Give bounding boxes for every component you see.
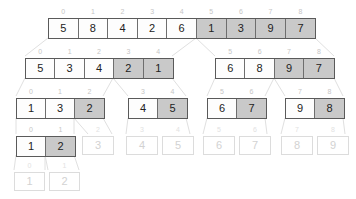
merge-sort-visualization: 0518243246516379870513243241566879870113… bbox=[0, 0, 356, 199]
array-cell[interactable]: 05 bbox=[26, 59, 55, 78]
cell-index-label: 3 bbox=[127, 126, 157, 133]
cell-index-label: 5 bbox=[204, 126, 234, 133]
group-faded-3: 3445 bbox=[126, 136, 198, 155]
cell-index-label: 6 bbox=[240, 126, 270, 133]
cell-index-label: 0 bbox=[26, 48, 54, 55]
array-cell[interactable]: 01 bbox=[14, 172, 45, 191]
group-0-2: 011322 bbox=[16, 98, 105, 119]
cell-index-label: 6 bbox=[245, 48, 273, 55]
cell-index-label: 8 bbox=[318, 126, 348, 133]
group-0-4: 0513243241 bbox=[25, 58, 174, 79]
group-0-1: 0112 bbox=[16, 136, 76, 157]
array-cell[interactable]: 05 bbox=[49, 19, 79, 38]
cell-index-label: 7 bbox=[256, 8, 285, 15]
array-cell[interactable]: 34 bbox=[126, 136, 158, 155]
cell-index-label: 3 bbox=[114, 48, 142, 55]
cell-index-label: 2 bbox=[108, 8, 137, 15]
array-cell[interactable]: 88 bbox=[315, 99, 344, 118]
edge-l1a-mid-r bbox=[113, 78, 128, 96]
edge-l3-mid-r bbox=[45, 155, 48, 170]
array-cell[interactable]: 13 bbox=[55, 59, 84, 78]
group-7-8: 7988 bbox=[285, 98, 345, 119]
array-cell[interactable]: 79 bbox=[256, 19, 286, 38]
array-cell[interactable]: 63 bbox=[227, 19, 257, 38]
cell-index-label: 8 bbox=[315, 88, 344, 95]
group-faded-5: 5667 bbox=[203, 136, 275, 155]
array-cell[interactable]: 12 bbox=[49, 172, 80, 191]
array-cell[interactable]: 24 bbox=[85, 59, 114, 78]
array-cell[interactable]: 45 bbox=[158, 99, 187, 118]
group-3-4: 3445 bbox=[128, 98, 188, 119]
group-0-8: 051824324651637987 bbox=[48, 18, 316, 39]
array-cell[interactable]: 46 bbox=[167, 19, 197, 38]
array-cell[interactable]: 18 bbox=[79, 19, 109, 38]
array-cell[interactable]: 87 bbox=[286, 19, 316, 38]
group-faded-leaf: 0112 bbox=[14, 172, 84, 191]
array-cell[interactable]: 56 bbox=[216, 59, 245, 78]
cell-index-label: 1 bbox=[79, 8, 108, 15]
cell-index-label: 4 bbox=[167, 8, 196, 15]
array-cell[interactable]: 01 bbox=[17, 137, 46, 156]
array-cell[interactable]: 87 bbox=[304, 59, 333, 78]
cell-index-label: 4 bbox=[163, 126, 193, 133]
cell-index-label: 5 bbox=[216, 48, 244, 55]
cell-index-label: 2 bbox=[83, 126, 113, 133]
cell-index-label: 0 bbox=[49, 8, 78, 15]
cell-index-label: 1 bbox=[50, 162, 79, 169]
edge-l0-mid-left bbox=[172, 38, 196, 56]
array-cell[interactable]: 23 bbox=[82, 136, 114, 155]
array-cell[interactable]: 79 bbox=[275, 59, 304, 78]
cell-index-label: 6 bbox=[227, 8, 256, 15]
cell-index-label: 7 bbox=[275, 48, 303, 55]
cell-index-label: 2 bbox=[85, 48, 113, 55]
edge-l0-mid-right bbox=[196, 38, 215, 56]
cell-index-label: 8 bbox=[286, 8, 316, 15]
cell-index-label: 1 bbox=[46, 126, 75, 133]
edge-l1b-mid-r bbox=[274, 78, 285, 96]
cell-index-label: 3 bbox=[129, 88, 157, 95]
array-cell[interactable]: 41 bbox=[144, 59, 173, 78]
cell-index-label: 0 bbox=[17, 88, 45, 95]
cell-index-label: 7 bbox=[282, 126, 312, 133]
array-cell[interactable]: 22 bbox=[75, 99, 104, 118]
array-cell[interactable]: 51 bbox=[197, 19, 227, 38]
cell-index-label: 6 bbox=[237, 88, 266, 95]
cell-index-label: 5 bbox=[197, 8, 226, 15]
cell-index-label: 4 bbox=[144, 48, 173, 55]
array-cell[interactable]: 12 bbox=[46, 137, 75, 156]
group-faded-7: 7889 bbox=[281, 136, 353, 155]
cell-index-label: 0 bbox=[15, 162, 44, 169]
array-cell[interactable]: 34 bbox=[129, 99, 158, 118]
cell-index-label: 4 bbox=[158, 88, 187, 95]
array-cell[interactable]: 32 bbox=[114, 59, 143, 78]
cell-index-label: 1 bbox=[46, 88, 74, 95]
cell-index-label: 8 bbox=[304, 48, 333, 55]
array-cell[interactable]: 67 bbox=[239, 136, 271, 155]
array-cell[interactable]: 56 bbox=[203, 136, 235, 155]
cell-index-label: 1 bbox=[55, 48, 83, 55]
array-cell[interactable]: 45 bbox=[162, 136, 194, 155]
array-cell[interactable]: 24 bbox=[108, 19, 138, 38]
array-cell[interactable]: 78 bbox=[281, 136, 313, 155]
array-cell[interactable]: 56 bbox=[208, 99, 237, 118]
array-cell[interactable]: 13 bbox=[46, 99, 75, 118]
cell-index-label: 7 bbox=[286, 88, 314, 95]
array-cell[interactable]: 32 bbox=[138, 19, 168, 38]
group-5-6: 5667 bbox=[207, 98, 267, 119]
edge-l1b-mid-l bbox=[265, 78, 274, 96]
cell-index-label: 5 bbox=[208, 88, 236, 95]
array-cell[interactable]: 79 bbox=[286, 99, 315, 118]
array-cell[interactable]: 01 bbox=[17, 99, 46, 118]
array-cell[interactable]: 68 bbox=[245, 59, 274, 78]
array-cell[interactable]: 67 bbox=[237, 99, 266, 118]
group-5-8: 56687987 bbox=[215, 58, 335, 79]
array-cell[interactable]: 89 bbox=[317, 136, 349, 155]
cell-index-label: 2 bbox=[75, 88, 104, 95]
edge-l1a-mid-l bbox=[103, 78, 113, 96]
cell-index-label: 0 bbox=[17, 126, 45, 133]
group-faded-2: 23 bbox=[82, 136, 118, 155]
cell-index-label: 3 bbox=[138, 8, 167, 15]
